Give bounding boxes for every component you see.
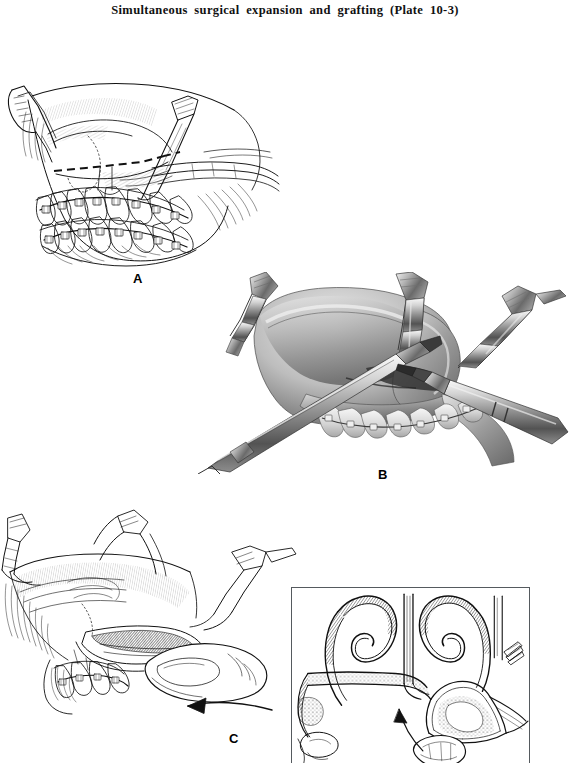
panel-c-illustration — [0, 508, 300, 760]
figure-label-a: A — [133, 271, 142, 286]
figure-panel-b — [196, 272, 570, 474]
panel-b-illustration — [196, 272, 570, 474]
inset-illustration — [292, 588, 529, 763]
figure-panel-a — [2, 40, 280, 272]
page-title: Simultaneous surgical expansion and graf… — [0, 3, 570, 18]
figure-label-b: B — [378, 467, 387, 482]
figure-label-c: C — [229, 731, 238, 746]
figure-inset-panel — [291, 587, 530, 763]
figure-page: Simultaneous surgical expansion and graf… — [0, 0, 570, 763]
figure-panel-c — [0, 508, 300, 760]
panel-a-illustration — [2, 40, 280, 272]
